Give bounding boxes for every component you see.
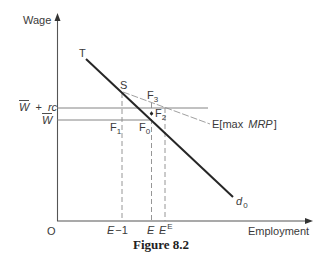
point-f0-label: F0 bbox=[139, 121, 151, 136]
point-s-label: S bbox=[120, 79, 127, 91]
max-mrp-label: E[max MRP] bbox=[212, 118, 277, 130]
y-axis bbox=[55, 13, 61, 221]
svg-text:W + rc: W + rc bbox=[19, 101, 58, 113]
diagram-canvas: Wage Employment O W + rc W T S F3 F2 F1 … bbox=[0, 0, 325, 257]
origin-label: O bbox=[47, 225, 56, 237]
point-t-label: T bbox=[79, 47, 86, 59]
x-axis bbox=[57, 218, 313, 224]
wage-plus-rc-label: W + rc bbox=[19, 101, 58, 114]
point-f2-dot bbox=[150, 112, 153, 115]
tick-e-e: EE bbox=[159, 222, 173, 236]
x-axis-arrow-icon bbox=[305, 218, 313, 224]
tick-e: E bbox=[147, 224, 155, 236]
svg-text:W: W bbox=[42, 114, 54, 126]
demand-curve-label: d0 bbox=[236, 195, 248, 210]
demand-curve-d0 bbox=[86, 59, 233, 197]
point-f1-label: F1 bbox=[110, 121, 122, 136]
economics-diagram: Wage Employment O W + rc W T S F3 F2 F1 … bbox=[0, 0, 325, 257]
y-axis-label: Wage bbox=[23, 14, 51, 26]
x-axis-label: Employment bbox=[248, 225, 309, 237]
tick-e-minus-1: E−1 bbox=[107, 224, 128, 236]
figure-caption: Figure 8.2 bbox=[133, 237, 189, 252]
y-axis-arrow-icon bbox=[55, 13, 61, 21]
wage-label: W bbox=[42, 114, 54, 127]
